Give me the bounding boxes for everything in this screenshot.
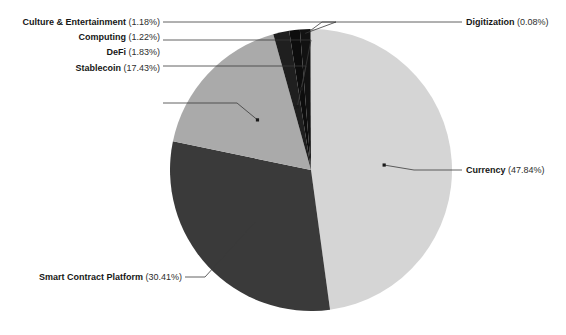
slice-label-defi: DeFi (1.83%)	[0, 47, 160, 58]
slice-label-stablecoin: Stablecoin (17.43%)	[0, 63, 160, 74]
slice-label-percent: (30.41%)	[145, 272, 182, 282]
pie-chart-figure: Culture & Entertainment (1.18%) Computin…	[0, 0, 566, 335]
slice-label-name: DeFi	[106, 47, 126, 57]
slice-label-name: Culture & Entertainment	[22, 17, 126, 27]
slice-label-percent: (1.18%)	[128, 17, 160, 27]
leader-dot-marker	[256, 118, 259, 121]
leader-line	[163, 22, 336, 33]
slice-label-percent: (47.84%)	[508, 165, 545, 175]
slice-label-currency: Currency (47.84%)	[466, 165, 545, 176]
slice-label-name: Smart Contract Platform	[39, 272, 143, 282]
slice-label-percent: (0.08%)	[517, 17, 549, 27]
slice-label-computing: Computing (1.22%)	[0, 32, 160, 43]
slice-label-name: Currency	[466, 165, 506, 175]
slice-label-name: Computing	[78, 32, 126, 42]
leader-dot-marker	[300, 87, 303, 90]
slice-label-culture-entertainment: Culture & Entertainment (1.18%)	[0, 17, 160, 28]
slice-label-digitization: Digitization (0.08%)	[466, 17, 549, 28]
slice-label-percent: (1.22%)	[128, 32, 160, 42]
leader-dot-marker	[383, 163, 386, 166]
slice-label-name: Digitization	[466, 17, 515, 27]
slice-label-name: Stablecoin	[75, 63, 121, 73]
leader-dot-marker	[296, 105, 299, 108]
slice-label-smart-contract-platform: Smart Contract Platform (30.41%)	[0, 272, 182, 283]
pie-slice[interactable]	[311, 29, 452, 310]
slice-label-percent: (17.43%)	[123, 63, 160, 73]
slice-label-percent: (1.83%)	[128, 47, 160, 57]
